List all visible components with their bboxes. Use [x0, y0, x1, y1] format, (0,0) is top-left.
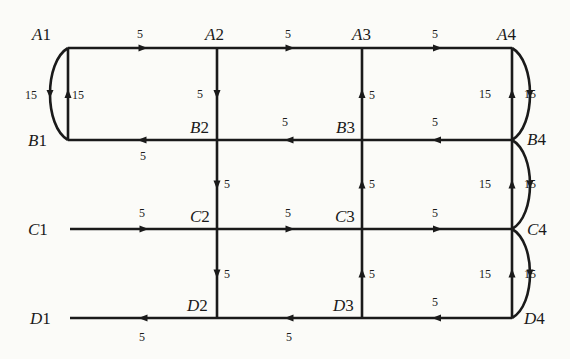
arrow-icon [139, 45, 148, 52]
arrow-icon [509, 89, 516, 98]
node-label-a2: A2 [204, 25, 224, 44]
edge-weight-label: 15 [524, 87, 536, 101]
edge-weight-label: 15 [524, 267, 536, 281]
arrow-icon [286, 226, 295, 233]
edge-weight-label: 5 [139, 206, 145, 220]
network-graph: 5555515151515555551515555551515555A1A2A3… [0, 0, 570, 359]
node-label-d2: D2 [186, 296, 208, 315]
edge-weight-label: 5 [285, 27, 291, 41]
edge-weight-label: 5 [286, 330, 292, 344]
arrow-icon [433, 45, 442, 52]
edges-layer [47, 45, 534, 322]
arrow-icon [359, 269, 366, 278]
edge-weight-label: 5 [432, 115, 438, 129]
edge-weight-label: 5 [140, 149, 146, 163]
edge-weight-label: 5 [224, 267, 230, 281]
arrow-icon [47, 90, 54, 98]
edge-weight-label: 5 [137, 27, 143, 41]
edge-weight-label: 15 [479, 267, 491, 281]
arrow-icon [140, 226, 149, 233]
edge-weight-label: 15 [25, 88, 37, 102]
edge-weight-label: 15 [72, 88, 84, 102]
node-label-c3: C3 [335, 207, 355, 226]
node-label-b3: B3 [336, 118, 355, 137]
edge-weight-label: 15 [479, 87, 491, 101]
arrow-icon [286, 45, 295, 52]
node-label-c4: C4 [527, 220, 547, 239]
arrow-icon [214, 90, 221, 99]
arrow-icon [214, 270, 221, 279]
arrow-icon [214, 181, 221, 190]
arrow-icon [432, 315, 441, 322]
arrow-icon [359, 180, 366, 189]
node-label-a3: A3 [351, 25, 371, 44]
arrow-icon [432, 137, 441, 144]
node-label-a4: A4 [496, 25, 516, 44]
arrow-icon [285, 315, 294, 322]
arrow-icon [285, 137, 294, 144]
edge-weight-label: 5 [197, 87, 203, 101]
edge-weight-label: 5 [432, 206, 438, 220]
arrow-icon [509, 269, 516, 278]
node-label-a1: A1 [31, 25, 51, 44]
arrow-icon [433, 226, 442, 233]
node-label-c1: C1 [28, 220, 48, 239]
node-label-d4: D4 [523, 309, 545, 328]
edge-weight-label: 5 [432, 27, 438, 41]
edge-weight-label: 5 [285, 206, 291, 220]
edge-weight-label: 5 [369, 177, 375, 191]
arrow-icon [138, 137, 147, 144]
node-label-b4: B4 [527, 130, 546, 149]
edge-weight-label: 5 [369, 267, 375, 281]
node-label-c2: C2 [190, 207, 210, 226]
arrow-icon [509, 180, 516, 189]
node-label-d1: D1 [29, 309, 51, 328]
arrow-icon [65, 89, 72, 98]
edge-A1-B1 [50, 48, 68, 140]
edge-weight-label: 5 [432, 295, 438, 309]
edge-weight-label: 5 [369, 88, 375, 102]
edge-weight-label: 5 [282, 115, 288, 129]
arrow-icon [359, 89, 366, 98]
arrow-icon [139, 315, 148, 322]
edge-weight-label: 5 [139, 330, 145, 344]
street-network-diagram: 5555515151515555551515555551515555A1A2A3… [0, 0, 570, 359]
node-label-d3: D3 [332, 296, 354, 315]
labels-layer: 5555515151515555551515555551515555A1A2A3… [25, 25, 547, 344]
node-label-b2: B2 [190, 118, 209, 137]
edge-weight-label: 15 [524, 177, 536, 191]
node-label-b1: B1 [28, 131, 47, 150]
edge-weight-label: 15 [479, 177, 491, 191]
edge-weight-label: 5 [224, 177, 230, 191]
